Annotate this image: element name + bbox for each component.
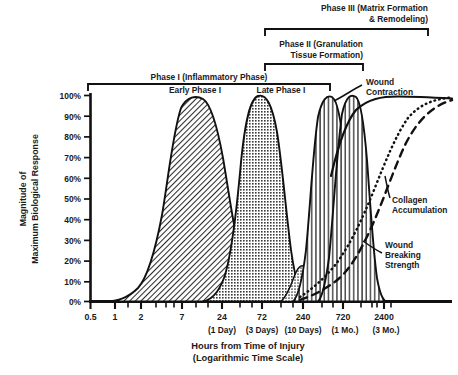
x-tick-sublabel: (1 Day) [208,325,236,335]
x-tick-sublabel: (10 Days) [284,325,321,335]
x-tick-label: 7 [180,312,185,322]
wound-contraction-label-line1: Wound [366,77,394,87]
y-tick-label: 40% [64,215,81,225]
phase-3-bracket-group: Phase III (Matrix Formation & Remodeling… [265,3,428,36]
x-tick-sublabel: (3 Mo.) [373,325,400,335]
y-axis-title-line2: Maximum Biological Response [30,134,40,264]
phase-1-label: Phase I (Inflammatory Phase) [151,72,268,82]
x-tick-sublabel: (3 Days) [246,325,279,335]
x-tick-label: 720 [336,312,351,322]
x-tick-label: 0.5 [84,312,96,322]
phase-2-bracket [265,64,363,71]
phase-2-bracket-group: Phase II (Granulation Tissue Formation) [265,39,363,71]
y-axis-title: Magnitude of Maximum Biological Response [18,134,40,264]
x-axis-title: Hours from Time of Injury (Logarithmic T… [191,341,305,363]
y-tick-label: 0% [69,297,82,307]
y-tick-label: 60% [64,174,81,184]
wound-contraction-label-line2: Contraction [366,87,413,97]
collagen-accumulation-label-line2: Accumulation [392,205,447,215]
wound-healing-phases-chart: 100% 90% 80% 70% 60% 50% 40% 30% 20% 10%… [0,0,458,375]
x-tick-label: 72 [257,312,267,322]
x-axis-title-line2: (Logarithmic Time Scale) [193,353,303,363]
x-axis-ticks [91,302,392,309]
x-tick-sublabel: (1 Mo.) [332,325,359,335]
phase-3-label-line2: & Remodeling) [369,14,428,24]
x-tick-label: 2 [139,312,144,322]
y-tick-label: 10% [64,277,81,287]
plot-series-areas [105,96,386,302]
early-phase-1-label: Early Phase I [169,85,221,95]
x-tick-label: 24 [217,312,227,322]
y-axis-tick-labels: 100% 90% 80% 70% 60% 50% 40% 30% 20% 10%… [60,91,82,307]
collagen-accumulation-leader-line [385,176,390,198]
x-axis-title-line1: Hours from Time of Injury [191,341,305,351]
phase-3-bracket [265,29,428,36]
x-axis-tick-labels: 0.5 1 2 7 24 72 240 720 2400 (1 Day) (3 … [84,312,399,335]
phase-3-label-line1: Phase III (Matrix Formation [321,3,428,13]
y-tick-label: 20% [64,256,81,266]
late-phase-1-label: Late Phase I [257,85,306,95]
phase-2-label-line1: Phase II (Granulation [279,39,363,49]
wound-breaking-strength-label-line3: Strength [385,260,419,270]
collagen-accumulation-label-line1: Collagen [392,195,427,205]
y-tick-label: 30% [64,236,81,246]
phase-1-bracket-group: Phase I (Inflammatory Phase) Early Phase… [88,72,330,95]
y-tick-label: 70% [64,153,81,163]
wound-breaking-strength-label-line2: Breaking [385,250,421,260]
x-tick-label: 2400 [374,312,394,322]
y-axis-title-line1: Magnitude of [18,172,28,227]
y-tick-label: 50% [64,194,81,204]
wound-breaking-strength-label-line1: Wound [385,240,413,250]
y-tick-label: 90% [64,112,81,122]
y-tick-label: 80% [64,132,81,142]
x-tick-label: 240 [296,312,311,322]
x-tick-label: 1 [113,312,118,322]
y-axis-ticks [84,96,90,302]
y-tick-label: 100% [60,91,82,101]
phase-2-label-line2: Tissue Formation) [291,50,364,60]
